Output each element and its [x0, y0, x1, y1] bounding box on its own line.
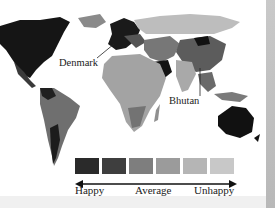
- legend-label-average: Average: [135, 185, 171, 196]
- legend-swatch-6: [210, 158, 234, 174]
- legend-swatch-5: [183, 158, 207, 174]
- legend-label-unhappy: Unhappy: [194, 185, 234, 196]
- bottom-edge-strip: [0, 196, 266, 208]
- legend-swatch-3: [129, 158, 153, 174]
- annotation-bhutan: Bhutan: [169, 96, 199, 107]
- right-edge-strip: [266, 0, 275, 208]
- legend-label-happy: Happy: [75, 185, 104, 196]
- map-figure: Denmark Bhutan Happy Average Unhappy: [0, 0, 275, 208]
- legend-swatches: [75, 158, 234, 174]
- legend-swatch-1: [75, 158, 99, 174]
- legend-swatch-2: [102, 158, 126, 174]
- annotation-denmark: Denmark: [59, 58, 98, 69]
- legend-swatch-4: [156, 158, 180, 174]
